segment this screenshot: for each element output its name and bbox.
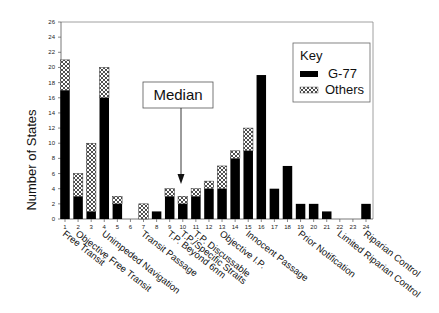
x-tick-label: 18	[284, 224, 291, 230]
bar-group-2	[73, 174, 83, 219]
bar-g77	[243, 151, 253, 219]
x-tick-label: 17	[271, 224, 278, 230]
bar-g77	[191, 196, 201, 219]
y-tick-label: 20	[48, 64, 55, 70]
x-tick-label: 14	[232, 224, 239, 230]
bar-others	[217, 166, 227, 189]
bar-group-12	[204, 181, 214, 219]
bar-g77	[230, 158, 240, 219]
bar-g77	[361, 204, 371, 219]
legend-label-g77: G-77	[328, 66, 357, 81]
bar-group-4	[100, 67, 110, 219]
arrow-down-icon	[178, 174, 185, 184]
bar-g77	[283, 166, 293, 219]
bar-g77	[204, 189, 214, 219]
bar-others	[73, 174, 83, 197]
bar-g77	[270, 189, 280, 219]
category-labels: Free TransitObjective Free TransitUnimpe…	[61, 228, 423, 299]
bar-group-13	[217, 166, 227, 219]
x-tick-label: 23	[350, 224, 357, 230]
y-tick-label: 16	[48, 95, 55, 101]
x-tick-label: 5	[116, 224, 120, 230]
bar-g77	[86, 211, 96, 219]
bar-others	[204, 181, 214, 189]
bar-group-17	[270, 189, 280, 219]
x-tick-label: 12	[206, 224, 213, 230]
legend-label-others: Others	[325, 82, 365, 97]
y-tick-label: 0	[52, 216, 56, 222]
bar-group-7	[139, 204, 149, 219]
bar-group-8	[152, 211, 162, 219]
bar-group-16	[257, 75, 267, 219]
bar-group-10	[178, 196, 188, 219]
bar-group-20	[309, 204, 319, 219]
bar-group-5	[113, 196, 123, 219]
y-tick-label: 4	[52, 186, 56, 192]
bar-group-9	[165, 189, 175, 219]
bar-group-18	[283, 166, 293, 219]
bar-g77	[217, 189, 227, 219]
y-tick-label: 6	[52, 171, 56, 177]
bar-g77	[257, 75, 267, 219]
y-tick-label: 26	[48, 19, 55, 25]
median-annotation: Median	[143, 82, 213, 184]
bar-others	[191, 189, 201, 197]
bar-others	[113, 196, 123, 204]
legend-swatch-g77	[300, 71, 318, 77]
bar-others	[178, 196, 188, 204]
x-tick-label: 3	[90, 224, 94, 230]
bar-g77	[60, 90, 70, 219]
y-tick-label: 10	[48, 140, 55, 146]
bar-others	[100, 67, 110, 97]
y-axis: 02468101214161820222426	[48, 19, 61, 222]
y-tick-label: 12	[48, 125, 55, 131]
x-axis: 123456789101112131415161718192021222324	[63, 219, 370, 230]
bar-g77	[100, 98, 110, 219]
bar-g77	[309, 204, 319, 219]
y-tick-label: 8	[52, 155, 56, 161]
bar-others	[230, 151, 240, 159]
x-tick-label: 21	[323, 224, 330, 230]
bar-group-11	[191, 189, 201, 219]
stacked-bar-chart: 02468101214161820222426 1234567891011121…	[0, 0, 439, 313]
bar-group-21	[322, 211, 332, 219]
bar-others	[139, 204, 149, 219]
x-tick-label: 8	[155, 224, 159, 230]
bar-others	[86, 143, 96, 211]
y-tick-label: 24	[48, 34, 55, 40]
bar-group-19	[296, 204, 306, 219]
bar-g77	[113, 204, 123, 219]
y-tick-label: 22	[48, 49, 55, 55]
x-tick-label: 6	[129, 224, 133, 230]
x-tick-label: 16	[258, 224, 265, 230]
bar-group-24	[361, 204, 371, 219]
median-label: Median	[153, 86, 202, 103]
y-tick-label: 14	[48, 110, 55, 116]
bar-g77	[178, 204, 188, 219]
legend-swatch-others	[300, 87, 318, 93]
bar-g77	[165, 196, 175, 219]
y-axis-label: Number of States	[24, 109, 39, 211]
legend: Key G-77 Others	[293, 43, 370, 102]
bar-group-15	[243, 128, 253, 219]
bar-group-1	[60, 60, 70, 219]
y-tick-label: 18	[48, 80, 55, 86]
bar-g77	[73, 196, 83, 219]
bar-others	[60, 60, 70, 90]
x-tick-label: 20	[310, 224, 317, 230]
legend-title: Key	[300, 48, 323, 63]
bar-g77	[322, 211, 332, 219]
bar-g77	[296, 204, 306, 219]
category-label: T.P./Specific Straits	[179, 228, 249, 286]
bar-group-14	[230, 151, 240, 219]
bar-group-3	[86, 143, 96, 219]
bar-others	[243, 128, 253, 151]
y-tick-label: 2	[52, 201, 56, 207]
bar-others	[165, 189, 175, 197]
bar-g77	[152, 211, 162, 219]
